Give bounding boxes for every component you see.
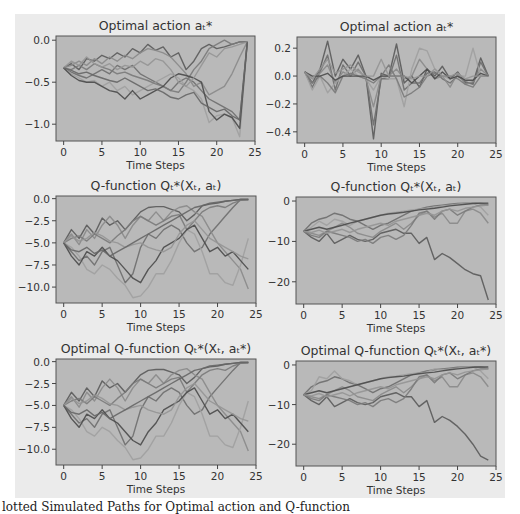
y-tick-label: 0.2 bbox=[274, 42, 291, 54]
x-tick-label: 5 bbox=[339, 309, 346, 321]
subplot-title: Q-function Qₜ*(Xₜ, aₜ) bbox=[331, 179, 462, 194]
x-tick-label: 0 bbox=[60, 146, 67, 158]
y-tick-label: −5.0 bbox=[25, 237, 51, 249]
y-tick-label: −2.5 bbox=[25, 215, 51, 227]
x-tick-label: 25 bbox=[489, 148, 502, 160]
x-tick-label: 25 bbox=[489, 309, 502, 321]
subplot-title: Q-function Qₜ*(Xₜ, aₜ) bbox=[91, 178, 222, 193]
x-tick-label: 0 bbox=[301, 148, 308, 160]
subplot-title: Optimal action aₜ* bbox=[340, 19, 453, 34]
x-tick-label: 0 bbox=[300, 309, 307, 321]
x-tick-label: 25 bbox=[489, 471, 502, 483]
x-tick-label: 5 bbox=[99, 146, 106, 158]
x-axis-label: Time Steps bbox=[366, 484, 425, 496]
x-tick-label: 20 bbox=[210, 146, 223, 158]
x-tick-label: 15 bbox=[172, 308, 185, 320]
x-tick-label: 10 bbox=[134, 308, 147, 320]
x-tick-label: 0 bbox=[300, 471, 307, 483]
y-tick-label: −10.0 bbox=[18, 443, 50, 455]
x-tick-label: 15 bbox=[172, 146, 185, 158]
subplot-6: Optimal Q-function Qₜ*(Xₜ, aₜ*)051015202… bbox=[268, 343, 503, 496]
x-tick-label: 20 bbox=[211, 470, 224, 482]
x-axis-label: Time Steps bbox=[126, 321, 185, 333]
figure-caption: lotted Simulated Paths for Optimal actio… bbox=[2, 500, 350, 514]
x-tick-label: 25 bbox=[249, 308, 262, 320]
y-tick-label: −1.0 bbox=[25, 118, 51, 130]
y-tick-label: −10 bbox=[268, 235, 290, 247]
y-tick-label: −20 bbox=[268, 276, 290, 288]
x-tick-label: 5 bbox=[339, 471, 346, 483]
figure-panel: Optimal action aₜ*05101520250.0−0.5−1.0T… bbox=[15, 14, 505, 498]
y-tick-label: −2.5 bbox=[25, 378, 51, 390]
x-tick-label: 10 bbox=[375, 148, 388, 160]
x-tick-label: 15 bbox=[413, 148, 426, 160]
x-axis-label: Time Steps bbox=[126, 483, 185, 495]
x-tick-label: 5 bbox=[340, 148, 347, 160]
y-tick-label: −10 bbox=[268, 399, 290, 411]
y-tick-label: −5.0 bbox=[25, 399, 51, 411]
x-tick-label: 20 bbox=[211, 308, 224, 320]
y-tick-label: 0.0 bbox=[33, 193, 50, 205]
x-tick-label: 25 bbox=[248, 146, 261, 158]
y-tick-label: 0 bbox=[283, 195, 290, 207]
subplot-title: Optimal Q-function Qₜ*(Xₜ, aₜ*) bbox=[61, 341, 252, 356]
subplot-3: Q-function Qₜ*(Xₜ, aₜ)05101520250.0−2.5−… bbox=[18, 178, 263, 333]
x-tick-label: 0 bbox=[60, 470, 67, 482]
x-tick-label: 10 bbox=[374, 471, 387, 483]
y-tick-label: 0 bbox=[283, 359, 290, 371]
x-tick-label: 5 bbox=[99, 470, 106, 482]
x-tick-label: 15 bbox=[172, 470, 185, 482]
y-tick-label: −7.5 bbox=[25, 421, 51, 433]
y-tick-label: −0.2 bbox=[266, 98, 292, 110]
y-tick-label: 0.0 bbox=[33, 356, 50, 368]
x-tick-label: 10 bbox=[134, 470, 147, 482]
y-tick-label: 0.0 bbox=[274, 70, 291, 82]
y-tick-label: −0.4 bbox=[266, 126, 292, 138]
x-tick-label: 15 bbox=[412, 309, 425, 321]
y-tick-label: −10.0 bbox=[18, 281, 50, 293]
x-tick-label: 15 bbox=[412, 471, 425, 483]
y-tick-label: −7.5 bbox=[25, 259, 51, 271]
x-axis-label: Time Steps bbox=[366, 161, 425, 173]
x-tick-label: 20 bbox=[451, 309, 464, 321]
subplot-5: Optimal Q-function Qₜ*(Xₜ, aₜ*)051015202… bbox=[18, 341, 263, 495]
x-tick-label: 10 bbox=[134, 146, 147, 158]
y-tick-label: 0.0 bbox=[33, 34, 50, 46]
x-tick-label: 0 bbox=[60, 308, 67, 320]
subplot-2: Optimal action aₜ*05101520250.20.0−0.2−0… bbox=[266, 19, 503, 173]
x-axis-label: Time Steps bbox=[366, 322, 425, 334]
subplot-4: Q-function Qₜ*(Xₜ, aₜ)05101520250−10−20T… bbox=[268, 179, 503, 334]
subplot-1: Optimal action aₜ*05101520250.0−0.5−1.0T… bbox=[25, 18, 262, 171]
x-tick-label: 5 bbox=[99, 308, 106, 320]
x-tick-label: 20 bbox=[451, 471, 464, 483]
x-axis-label: Time Steps bbox=[125, 159, 184, 171]
subplot-title: Optimal Q-function Qₜ*(Xₜ, aₜ*) bbox=[301, 343, 492, 358]
x-tick-label: 20 bbox=[451, 148, 464, 160]
subplot-title: Optimal action aₜ* bbox=[99, 18, 212, 33]
y-tick-label: −20 bbox=[268, 438, 290, 450]
y-tick-label: −0.5 bbox=[25, 76, 51, 88]
x-tick-label: 10 bbox=[374, 309, 387, 321]
chart-grid: Optimal action aₜ*05101520250.0−0.5−1.0T… bbox=[15, 14, 505, 498]
x-tick-label: 25 bbox=[249, 470, 262, 482]
